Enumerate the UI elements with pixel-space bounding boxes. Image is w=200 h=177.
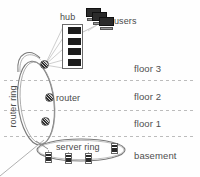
hub-unit-2 <box>68 38 81 45</box>
network-topology-diagram: hub users router router ring server ring… <box>0 0 200 177</box>
monitor-screen <box>99 17 114 26</box>
users-label: users <box>114 17 137 26</box>
server-icon-2[interactable] <box>65 153 72 164</box>
server-icon-4[interactable] <box>111 143 118 154</box>
floor-label-floor2: floor 2 <box>134 92 161 102</box>
server-icon-3[interactable] <box>85 153 92 164</box>
router-ring-inner <box>16 60 58 145</box>
hub-unit-3 <box>68 48 81 55</box>
workstation-icon-3 <box>99 17 114 30</box>
hub-label: hub <box>60 13 75 22</box>
floor-label-basement: basement <box>134 151 177 161</box>
router-node-floor3[interactable] <box>40 60 49 69</box>
hub-unit-1 <box>68 27 81 34</box>
router-node-floor2[interactable] <box>45 93 54 102</box>
hub-unit-4 <box>68 59 81 66</box>
router-ring-label: router ring <box>9 85 18 127</box>
server-icon-1[interactable] <box>45 152 52 163</box>
monitor-base <box>100 27 113 30</box>
server-ring-label: server ring <box>56 143 100 152</box>
hub-icon[interactable] <box>62 24 83 69</box>
floor-label-floor3: floor 3 <box>134 64 161 74</box>
backbone-link <box>0 140 44 176</box>
users-icon[interactable] <box>86 8 116 32</box>
router-label: router <box>56 94 80 103</box>
router-node-floor1[interactable] <box>41 117 50 126</box>
floor-label-floor1: floor 1 <box>134 119 161 129</box>
